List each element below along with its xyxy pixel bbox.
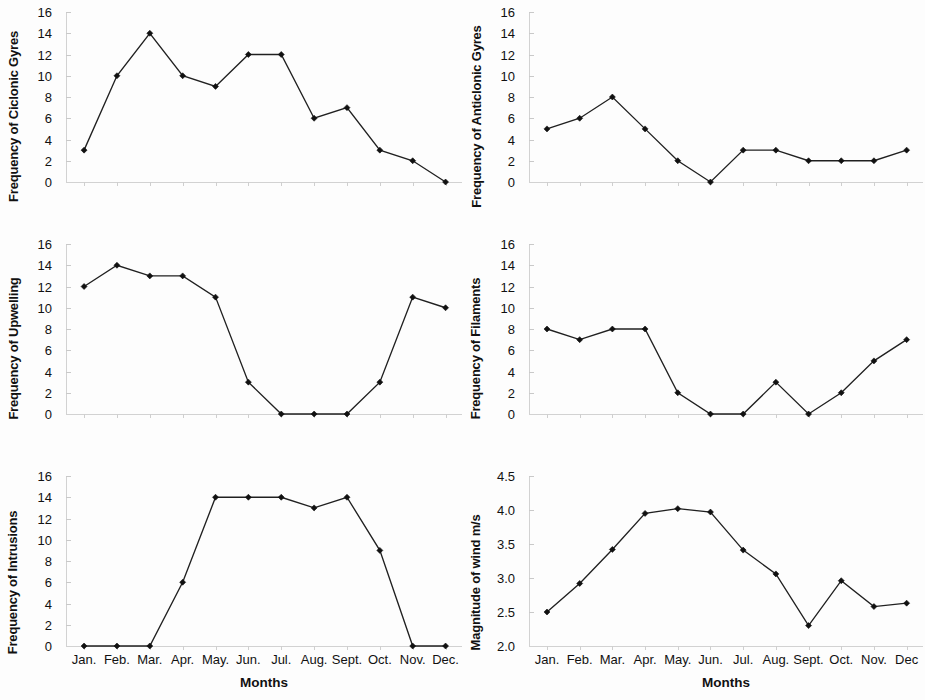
y-axis-title-label: Magnitude of wind m/s xyxy=(469,514,484,650)
x-tick-label: Feb. xyxy=(567,652,593,667)
y-tick-label: 14 xyxy=(38,258,52,273)
plot-area-filaments xyxy=(529,232,923,464)
x-tick-label: Feb. xyxy=(104,652,130,667)
y-tick-label: 14 xyxy=(38,490,52,505)
x-tick-label: Mar. xyxy=(137,652,162,667)
y-tick-label: 6 xyxy=(45,111,52,126)
y-axis-title-label: Frequency of Anticlonic Gyres xyxy=(469,25,484,207)
series-line-filaments xyxy=(529,232,923,464)
y-axis-ticks-filaments: 0246810121416 xyxy=(489,232,519,464)
plot-area-intrusions: Jan.Feb.Mar.Apr.May.Jun.Jul.Aug.Sept.Oct… xyxy=(66,464,462,700)
x-tick-label: Aug. xyxy=(301,652,328,667)
y-tick-label: 0 xyxy=(508,407,515,422)
y-tick-label: 10 xyxy=(501,68,515,83)
y-axis-ticks-intrusions: 0246810121416 xyxy=(26,464,56,700)
x-tick-label: Jan. xyxy=(72,652,97,667)
y-tick-label: 10 xyxy=(38,300,52,315)
x-tick-label: Dec xyxy=(895,652,918,667)
y-tick-label: 12 xyxy=(38,47,52,62)
y-tick-label: 3.0 xyxy=(497,571,515,586)
y-axis-ticks-upwelling: 0246810121416 xyxy=(26,232,56,464)
y-axis-title-label: Frequency of Ciclonic Gyres xyxy=(6,31,21,202)
y-tick-label: 0 xyxy=(45,407,52,422)
y-tick-label: 4.0 xyxy=(497,503,515,518)
y-tick-label: 2 xyxy=(508,385,515,400)
y-tick-label: 12 xyxy=(38,279,52,294)
x-tick-label: Mar. xyxy=(600,652,625,667)
x-axis-title-wind-magnitude: Months xyxy=(529,675,923,690)
plot-area-wind-magnitude: Jan.Feb.Mar.Apr.May.Jun.Jul.Aug.Sept.Oct… xyxy=(529,464,923,700)
y-tick-label: 16 xyxy=(38,237,52,252)
y-tick-label: 2.0 xyxy=(497,639,515,654)
y-axis-ticks-cyclonic-gyres: 0246810121416 xyxy=(26,0,56,232)
figure-canvas: Frequency of Ciclonic Gyres0246810121416… xyxy=(0,0,925,700)
x-tick-label: May. xyxy=(202,652,229,667)
x-tick-label: Apr. xyxy=(634,652,657,667)
y-axis-title-cyclonic-gyres: Frequency of Ciclonic Gyres xyxy=(0,0,26,232)
x-tick-label: Jun. xyxy=(698,652,723,667)
y-axis-title-label: Frequency of Filaments xyxy=(469,277,484,419)
series-line-upwelling xyxy=(66,232,462,464)
chart-panel-anticlonic-gyres: Frequency of Anticlonic Gyres02468101214… xyxy=(463,0,925,232)
y-tick-label: 14 xyxy=(501,26,515,41)
panel-inner-cyclonic-gyres: Frequency of Ciclonic Gyres0246810121416 xyxy=(0,0,462,232)
x-tick-label: Jun. xyxy=(236,652,261,667)
x-tick-label: Jan. xyxy=(535,652,560,667)
chart-panel-upwelling: Frequency of Upwelling0246810121416 xyxy=(0,232,462,464)
x-tick-label: Dec. xyxy=(432,652,459,667)
x-tick-label: Sept. xyxy=(332,652,362,667)
y-tick-label: 16 xyxy=(501,237,515,252)
y-tick-label: 10 xyxy=(38,532,52,547)
y-tick-label: 10 xyxy=(501,300,515,315)
y-axis-title-label: Frequency of Upwelling xyxy=(6,277,21,419)
y-axis-ticks-anticlonic-gyres: 0246810121416 xyxy=(489,0,519,232)
x-tick-label: Oct. xyxy=(829,652,853,667)
y-tick-label: 8 xyxy=(45,322,52,337)
panel-inner-anticlonic-gyres: Frequency of Anticlonic Gyres02468101214… xyxy=(463,0,925,232)
y-axis-title-intrusions: Frequency of Intrusions xyxy=(0,464,26,700)
plot-area-upwelling xyxy=(66,232,462,464)
x-tick-label: Jul. xyxy=(733,652,753,667)
panel-inner-wind-magnitude: Magnitude of wind m/s2.02.53.03.54.04.5J… xyxy=(463,464,925,700)
y-tick-label: 4 xyxy=(508,364,515,379)
plot-area-anticlonic-gyres xyxy=(529,0,923,232)
y-tick-label: 6 xyxy=(508,343,515,358)
y-tick-label: 16 xyxy=(501,5,515,20)
y-tick-label: 12 xyxy=(501,47,515,62)
panel-inner-intrusions: Frequency of Intrusions0246810121416Jan.… xyxy=(0,464,462,700)
x-tick-label: Nov. xyxy=(400,652,426,667)
y-tick-label: 14 xyxy=(501,258,515,273)
x-axis-title-intrusions: Months xyxy=(66,675,462,690)
y-tick-label: 8 xyxy=(508,322,515,337)
y-tick-label: 2 xyxy=(45,153,52,168)
y-tick-label: 0 xyxy=(45,175,52,190)
y-tick-label: 4 xyxy=(45,596,52,611)
y-tick-label: 4 xyxy=(45,364,52,379)
x-tick-label: Oct. xyxy=(368,652,392,667)
y-tick-label: 8 xyxy=(45,90,52,105)
chart-panel-filaments: Frequency of Filaments0246810121416 xyxy=(463,232,925,464)
x-tick-label: May. xyxy=(664,652,691,667)
chart-panel-wind-magnitude: Magnitude of wind m/s2.02.53.03.54.04.5J… xyxy=(463,464,925,700)
y-axis-title-filaments: Frequency of Filaments xyxy=(463,232,489,464)
y-axis-ticks-wind-magnitude: 2.02.53.03.54.04.5 xyxy=(489,464,519,700)
y-tick-label: 14 xyxy=(38,26,52,41)
y-axis-title-label: Frequency of Intrusions xyxy=(6,510,21,653)
x-tick-label: Jul. xyxy=(271,652,291,667)
chart-panel-intrusions: Frequency of Intrusions0246810121416Jan.… xyxy=(0,464,462,700)
x-tick-label: Apr. xyxy=(171,652,194,667)
y-axis-title-anticlonic-gyres: Frequency of Anticlonic Gyres xyxy=(463,0,489,232)
chart-panel-cyclonic-gyres: Frequency of Ciclonic Gyres0246810121416 xyxy=(0,0,462,232)
y-tick-label: 4 xyxy=(508,132,515,147)
y-tick-label: 6 xyxy=(45,575,52,590)
x-tick-label: Sept. xyxy=(793,652,823,667)
y-axis-title-upwelling: Frequency of Upwelling xyxy=(0,232,26,464)
plot-area-cyclonic-gyres xyxy=(66,0,462,232)
y-tick-label: 8 xyxy=(508,90,515,105)
series-line-cyclonic-gyres xyxy=(66,0,462,232)
x-tick-label: Aug. xyxy=(762,652,789,667)
y-axis-title-wind-magnitude: Magnitude of wind m/s xyxy=(463,464,489,700)
x-tick-label: Nov. xyxy=(861,652,887,667)
y-tick-label: 8 xyxy=(45,554,52,569)
y-tick-label: 2 xyxy=(508,153,515,168)
